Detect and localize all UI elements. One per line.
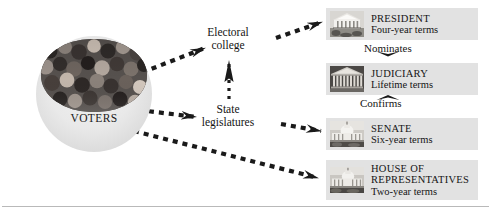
institution-name-house-line2: REPRESENTATIVES xyxy=(371,174,469,186)
voters-label: VOTERS xyxy=(36,112,152,124)
institution-box-president[interactable]: PRESIDENT Four-year terms xyxy=(326,8,478,40)
institution-name-president: PRESIDENT xyxy=(371,13,438,25)
footer-divider xyxy=(2,206,489,207)
supreme-court-icon xyxy=(330,66,364,92)
diagram-canvas: VOTERS Electoral college State legislatu… xyxy=(0,0,491,218)
institution-term-judiciary: Lifetime terms xyxy=(371,79,433,91)
institution-box-house[interactable]: HOUSE OF REPRESENTATIVES Two-year terms xyxy=(326,160,478,200)
confirms-label: Confirms xyxy=(360,97,402,109)
arrow-state-legislatures-to-senate xyxy=(281,124,321,131)
institution-text-house: HOUSE OF REPRESENTATIVES Two-year terms xyxy=(371,163,469,198)
state-legislatures-label-line2: legislatures xyxy=(178,116,278,129)
institution-term-senate: Six-year terms xyxy=(371,134,433,146)
institution-term-president: Four-year terms xyxy=(371,24,438,36)
institution-box-senate[interactable]: SENATE Six-year terms xyxy=(326,118,478,150)
capitol-icon xyxy=(330,167,364,193)
electoral-college-node[interactable]: Electoral college xyxy=(186,26,270,51)
institution-box-judiciary[interactable]: JUDICIARY Lifetime terms xyxy=(326,63,478,95)
state-legislatures-label-line1: State xyxy=(178,103,278,116)
arrow-voters-to-house xyxy=(134,131,318,178)
state-legislatures-node[interactable]: State legislatures xyxy=(178,103,278,128)
crowd-photo-icon xyxy=(41,39,147,112)
nominates-label: Nominates xyxy=(364,42,412,54)
institution-name-house-line1: HOUSE OF xyxy=(371,163,469,175)
electoral-college-label-line2: college xyxy=(186,39,270,52)
institution-name-senate: SENATE xyxy=(371,123,433,135)
white-house-icon xyxy=(330,11,364,37)
institution-term-house: Two-year terms xyxy=(371,186,469,198)
institution-text-judiciary: JUDICIARY Lifetime terms xyxy=(371,68,433,91)
arrow-electoral-college-to-president xyxy=(276,22,322,38)
institution-text-senate: SENATE Six-year terms xyxy=(371,123,433,146)
capitol-icon xyxy=(330,121,364,147)
electoral-college-label-line1: Electoral xyxy=(186,26,270,39)
voters-node[interactable]: VOTERS xyxy=(36,36,152,152)
institution-text-president: PRESIDENT Four-year terms xyxy=(371,13,438,36)
institution-name-judiciary: JUDICIARY xyxy=(371,68,433,80)
arrowhead-up-electoral-college xyxy=(224,60,233,82)
